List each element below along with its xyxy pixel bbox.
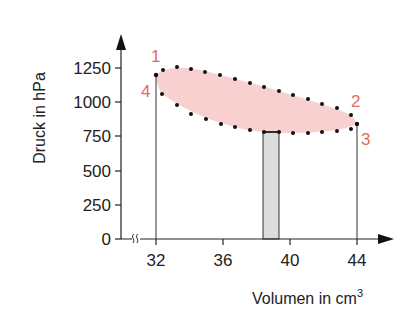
- pv-diagram: 0 250 500 750 1000 1250 32 36 40 44 Druc…: [0, 0, 407, 317]
- point-label-1: 1: [151, 47, 160, 66]
- y-tick-250: 250: [83, 196, 111, 215]
- y-tick-1000: 1000: [73, 93, 111, 112]
- x-axis-title-main: Volumen in cm: [252, 290, 357, 307]
- y-axis-title: Druck in hPa: [31, 72, 48, 164]
- x-axis-title: Volumen in cm3: [252, 287, 363, 307]
- x-tick-32: 32: [147, 251, 166, 270]
- x-tick-44: 44: [348, 251, 367, 270]
- x-axis-arrow-icon: [378, 234, 394, 244]
- x-tick-40: 40: [281, 251, 300, 270]
- axis-break-icon: [132, 234, 140, 244]
- y-tick-500: 500: [83, 162, 111, 181]
- y-tick-1250: 1250: [73, 59, 111, 78]
- y-tick-0: 0: [102, 230, 111, 249]
- point-label-4: 4: [141, 82, 150, 101]
- x-tick-36: 36: [214, 251, 233, 270]
- cycle-area: [156, 68, 357, 133]
- work-strip: [263, 132, 279, 239]
- x-axis-title-sup: 3: [357, 287, 363, 299]
- point-label-2: 2: [351, 92, 360, 111]
- y-axis-arrow-icon: [116, 34, 126, 50]
- point-label-3: 3: [361, 130, 370, 149]
- y-tick-750: 750: [83, 127, 111, 146]
